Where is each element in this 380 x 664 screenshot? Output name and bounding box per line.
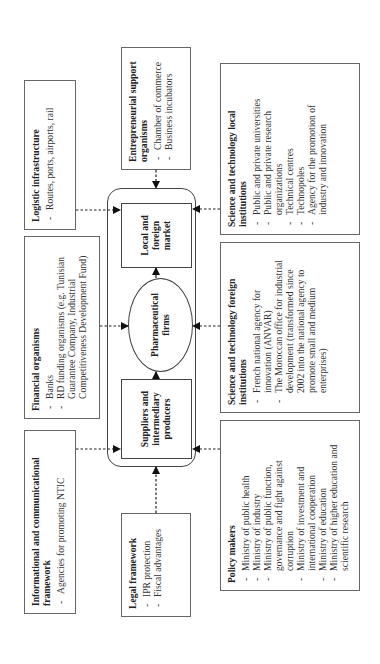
- box-title: Science and technology foreign instituti…: [226, 250, 248, 405]
- legal-framework-box: Legal framework IPR protection Fiscal ad…: [121, 513, 191, 617]
- science-local-institutions-box: Science and technology local institution…: [220, 63, 360, 235]
- science-foreign-institutions-box: Science and technology foreign instituti…: [220, 242, 360, 413]
- list-item: Routes, ports, airports, rail: [44, 88, 55, 222]
- list-item: Public and private research organization…: [262, 71, 284, 227]
- list-item: The Moroccan office for industrial devel…: [273, 250, 328, 405]
- box-title: Legal framework: [127, 521, 138, 609]
- box-title: Policy makers: [226, 428, 237, 583]
- list-item: Technical centres: [284, 71, 295, 227]
- pharmaceutical-firms-ellipse: Pharmaceutical firms: [128, 278, 193, 372]
- box-title: Financial organisms: [30, 244, 41, 411]
- list-item: Chamber of commerce: [152, 55, 163, 162]
- financial-organisms-box: Financial organisms Banks RD funding org…: [24, 236, 100, 419]
- pharma-label: Pharmaceutical firms: [150, 289, 172, 361]
- list-item: Agency for the promotion of industry and…: [306, 71, 328, 227]
- market-box: Local and foreign market: [121, 203, 192, 268]
- suppliers-label: Suppliers and intermediary producers: [140, 384, 173, 454]
- list-item: Ministry of education: [317, 428, 328, 583]
- box-title: Informational and communicational framew…: [30, 438, 52, 606]
- list-item: Ministry of public function, governance …: [262, 428, 295, 583]
- market-label: Local and foreign market: [140, 210, 173, 261]
- suppliers-box: Suppliers and intermediary producers: [121, 379, 192, 459]
- list-item: Public and private universities: [251, 71, 262, 227]
- list-item: Ministry of higher education and scienti…: [328, 428, 350, 583]
- list-item: RD funding organisms (e.g. Tunisian Guar…: [55, 244, 88, 411]
- box-title: Entrepreneurial support organisms: [127, 55, 149, 162]
- list-item: French national agency for innovation (A…: [251, 250, 273, 405]
- list-item: Ministry of investment and international…: [295, 428, 317, 583]
- list-item: Banks: [44, 244, 55, 411]
- list-item: Technopoles: [295, 71, 306, 227]
- box-title: Science and technology local institution…: [226, 71, 248, 227]
- informational-framework-box: Informational and communicational framew…: [24, 430, 76, 614]
- list-item: Ministry of industry: [251, 428, 262, 583]
- logistic-infrastructure-box: Logistic infrastructure Routes, ports, a…: [24, 80, 76, 230]
- entrepreneurial-support-box: Entrepreneurial support organisms Chambe…: [121, 47, 191, 170]
- diagram-stage: Informational and communicational framew…: [0, 0, 380, 664]
- list-item: Agencies for promoting NTIC: [55, 438, 66, 606]
- list-item: Fiscal advantages: [152, 521, 163, 609]
- box-title: Logistic infrastructure: [30, 88, 41, 222]
- policy-makers-box: Policy makers Ministry of public health …: [220, 420, 360, 591]
- list-item: Business incubators: [163, 55, 174, 162]
- list-item: Ministry of public health: [240, 428, 251, 583]
- list-item: IPR protection: [141, 521, 152, 609]
